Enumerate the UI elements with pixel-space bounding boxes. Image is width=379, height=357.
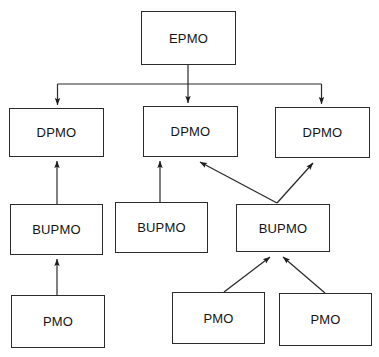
node-epmo[interactable]: EPMO [141, 11, 236, 65]
node-label: BUPMO [32, 223, 81, 236]
node-label: DPMO [303, 126, 343, 139]
node-label: BUPMO [259, 222, 308, 235]
node-dpmo-1[interactable]: DPMO [9, 108, 104, 157]
node-bupmo-3[interactable]: BUPMO [236, 204, 330, 252]
node-label: DPMO [171, 125, 211, 138]
connector-pmo2-bupmo3 [224, 257, 270, 292]
node-dpmo-3[interactable]: DPMO [275, 107, 370, 158]
node-bupmo-1[interactable]: BUPMO [10, 204, 103, 255]
node-label: DPMO [37, 126, 77, 139]
node-pmo-3[interactable]: PMO [279, 293, 372, 346]
connector-bupmo3-dpmo3 [277, 163, 313, 203]
node-bupmo-2[interactable]: BUPMO [115, 202, 208, 253]
diagram-canvas: EPMO DPMO DPMO DPMO BUPMO BUPMO BUPMO PM… [0, 0, 379, 357]
node-label: BUPMO [137, 221, 186, 234]
node-pmo-2[interactable]: PMO [172, 292, 265, 344]
node-label: PMO [43, 315, 73, 328]
connector-pmo3-bupmo3 [283, 257, 325, 293]
node-label: PMO [310, 313, 340, 326]
node-dpmo-2[interactable]: DPMO [143, 106, 238, 157]
node-label: EPMO [169, 32, 208, 45]
node-label: PMO [203, 312, 233, 325]
connector-bupmo3-dpmo2 [200, 162, 277, 203]
node-pmo-1[interactable]: PMO [11, 295, 105, 348]
